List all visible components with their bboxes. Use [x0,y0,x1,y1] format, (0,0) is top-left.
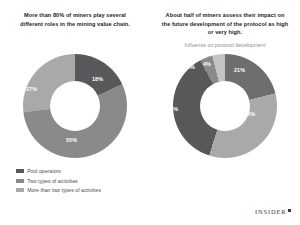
right-chart-title: About half of miners assess their impact… [161,11,289,37]
left-chart-panel: More than 80% of miners play several dif… [0,0,150,225]
left-slice-label-2: 27% [26,86,37,92]
legend-swatch-icon [16,169,24,173]
right-slice-label-1: 34% [244,111,255,117]
left-slice-label-1: 55% [66,137,77,143]
right-slice-label-4: 4% [203,61,211,67]
left-slice-label-0: 18% [92,76,103,82]
legend-item-more-than-two-types[interactable]: More than two types of activities [16,187,150,193]
legend-item-label: More than two types of activities [27,187,101,193]
left-legend-column: Pool operators Two types of activities M… [16,168,150,197]
insider-wordmark: INSIDER [255,208,287,215]
right-slice-label-0: 21% [234,67,245,73]
legend-swatch-icon [16,179,24,183]
legend-item-two-types[interactable]: Two types of activities [16,178,150,184]
legend-item-label: Two types of activities [27,178,77,184]
legend-item-pool-operators[interactable]: Pool operators [16,168,150,174]
right-slice-label-3: 4% [187,64,195,70]
right-slice-label-2: 37% [167,106,178,112]
left-chart-title: More than 80% of miners play several dif… [14,11,136,28]
legend-item-label: Pool operators [27,168,61,174]
infographic-page: More than 80% of miners play several dif… [0,0,300,225]
right-chart-panel: About half of miners assess their impact… [150,0,300,225]
right-donut-chart: 21% 34% 37% 4% 4% [150,54,300,162]
legend-swatch-icon [16,188,24,192]
insider-square-icon [288,209,292,213]
left-chart-legend: Pool operators Two types of activities M… [16,168,150,225]
left-donut-chart: 18% 55% 27% [0,54,150,162]
right-chart-subtitle: Influence on protocol development [150,42,300,48]
insider-logo: INSIDER [255,208,291,215]
